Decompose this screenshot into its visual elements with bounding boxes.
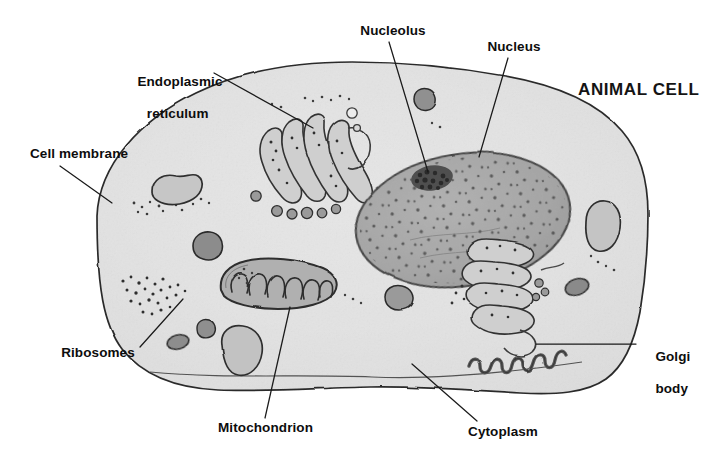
label-line-2: body (655, 381, 688, 396)
lysosome-a (193, 232, 222, 260)
label-line-1: Golgi (655, 349, 690, 364)
lysosome-d (197, 319, 215, 337)
mitochondrion-body (221, 259, 337, 309)
animal-cell-diagram: ANIMAL CELL Endoplasmic reticulum Cell m… (0, 0, 701, 467)
label-endoplasmic-reticulum: Endoplasmic reticulum (122, 58, 218, 138)
label-golgi-body: Golgi body (640, 333, 696, 413)
lysosome-e (148, 289, 163, 303)
page-title: ANIMAL CELL (578, 80, 700, 100)
lysosome-c (414, 88, 436, 110)
label-line-1: Endoplasmic (137, 74, 222, 89)
vacuole-lower-left (222, 326, 263, 376)
label-ribosomes: Ribosomes (59, 345, 137, 361)
label-line-2: reticulum (147, 106, 209, 121)
vacuole-right (586, 201, 621, 251)
lysosome-b (385, 286, 413, 310)
label-cytoplasm: Cytoplasm (466, 424, 540, 440)
label-mitochondrion: Mitochondrion (218, 420, 312, 436)
label-cell-membrane: Cell membrane (30, 146, 124, 162)
label-nucleolus: Nucleolus (360, 23, 426, 39)
cell-illustration (0, 0, 701, 467)
label-nucleus: Nucleus (486, 39, 542, 55)
